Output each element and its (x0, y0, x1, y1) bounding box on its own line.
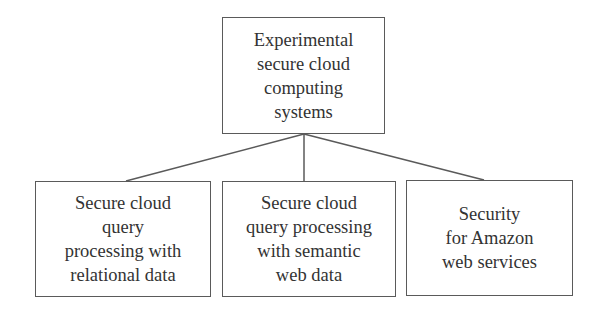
label-line: with semantic (246, 239, 372, 263)
label-line: web data (246, 263, 372, 287)
hierarchy-diagram: Experimental secure cloud computing syst… (0, 0, 599, 314)
root-node-experimental-secure-cloud-computing-systems: Experimental secure cloud computing syst… (222, 17, 385, 134)
connector-root-to-child-0 (126, 134, 304, 181)
label-line: relational data (65, 263, 182, 287)
child-node-label: Secure cloud query processing with relat… (65, 191, 182, 287)
label-line: secure cloud (254, 52, 354, 76)
label-line: Secure cloud (65, 191, 182, 215)
child-node-semantic-web-data: Secure cloud query processing with seman… (222, 181, 396, 297)
root-node-label: Experimental secure cloud computing syst… (254, 28, 354, 124)
connector-root-to-child-2 (304, 134, 484, 180)
label-line: Secure cloud (246, 191, 372, 215)
label-line: processing with (65, 239, 182, 263)
label-line: Experimental (254, 28, 354, 52)
label-line: web services (442, 250, 537, 274)
label-line: Security (442, 202, 537, 226)
child-node-amazon-web-services: Security for Amazon web services (406, 180, 573, 296)
label-line: for Amazon (442, 226, 537, 250)
child-node-label: Security for Amazon web services (442, 202, 537, 274)
child-node-relational-data: Secure cloud query processing with relat… (35, 181, 211, 297)
label-line: query processing (246, 215, 372, 239)
label-line: query (65, 215, 182, 239)
label-line: computing (254, 76, 354, 100)
child-node-label: Secure cloud query processing with seman… (246, 191, 372, 287)
label-line: systems (254, 100, 354, 124)
